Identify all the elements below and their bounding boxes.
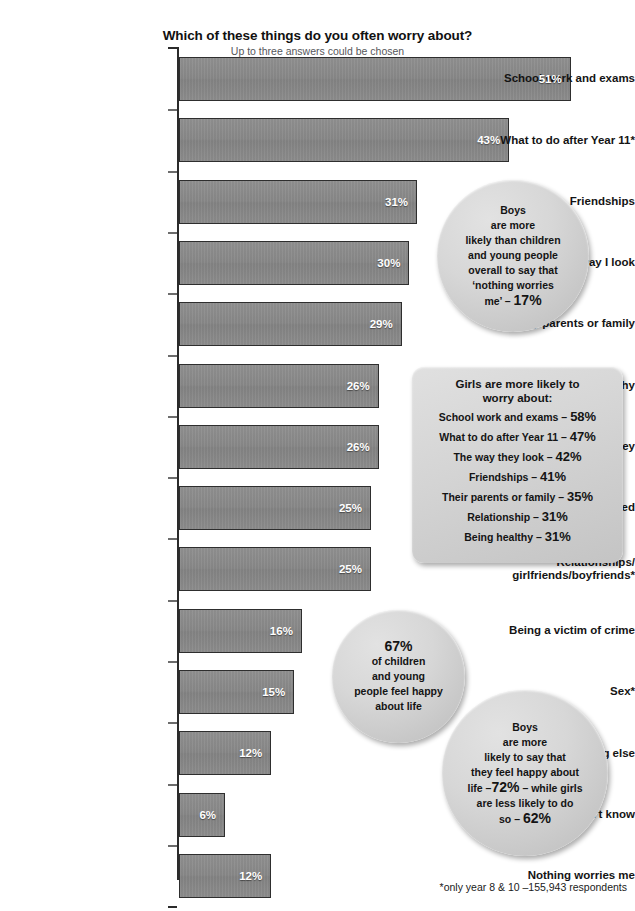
callout-line: about life (342, 699, 455, 714)
axis-tick (168, 355, 177, 357)
callout-boys-nothing-worries: Boysare morelikely than childrenand youn… (437, 180, 589, 332)
callout-line: and young (342, 669, 455, 684)
callout-girls-item-value: 42% (556, 449, 582, 464)
bar-row: 12% (179, 854, 271, 898)
axis-tick (168, 600, 177, 602)
callout-line: they feel happy about (452, 765, 598, 780)
callout-girls-item-value: 58% (570, 409, 596, 424)
callout-line: are less likely to do (452, 796, 598, 811)
callout-girls-worries: Girls are more likely to worry about: Sc… (412, 367, 623, 563)
bar-row: 25% (179, 547, 371, 591)
callout-girls-heading-line2: worry about: (420, 391, 615, 405)
category-label: Being a victim of crime (463, 624, 635, 638)
axis-tick (168, 47, 177, 49)
bar-value-label: 12% (239, 731, 262, 775)
callout-line: me’ – 17% (447, 293, 579, 309)
axis-tick (168, 538, 177, 540)
axis-tick (168, 477, 177, 479)
callout-line: likely than children (447, 233, 579, 248)
callout-girls-item-value: 47% (570, 429, 596, 444)
bar-row: 29% (179, 302, 402, 346)
bar-value-label: 25% (339, 547, 362, 591)
bar (179, 241, 409, 285)
callout-girls-item-value: 41% (540, 469, 566, 484)
footnote: *only year 8 & 10 –155,943 respondents (440, 881, 627, 893)
callout-line: so – 62% (452, 811, 598, 827)
callout-boys-nothing-worries-text: Boysare morelikely than childrenand youn… (437, 203, 589, 309)
callout-girls-item: What to do after Year 11 – 47% (420, 427, 615, 447)
callout-line-text: me’ – (484, 295, 513, 307)
callout-happy-value: 67% (342, 639, 455, 654)
callout-line: overall to say that (447, 263, 579, 278)
callout-girls-item-label: Friendships – (469, 471, 540, 483)
callout-line: Boys (452, 720, 598, 735)
callout-boys-happy: Boysare morelikely to say thatthey feel … (442, 690, 608, 856)
callout-girls-item-value: 35% (567, 489, 593, 504)
callout-line: Boys (447, 203, 579, 218)
axis-tick (168, 109, 177, 111)
axis-tick (168, 232, 177, 234)
callout-girls-item-label: Their parents or family – (442, 491, 567, 503)
chart-title: Which of these things do you often worry… (0, 28, 635, 43)
callout-girls-item-label: School work and exams – (439, 411, 570, 423)
bar-row: 31% (179, 180, 417, 224)
axis-tick (168, 722, 177, 724)
callout-girls-item-label: What to do after Year 11 – (439, 431, 570, 443)
callout-girls-heading: Girls are more likely to worry about: (420, 377, 615, 405)
axis-tick (168, 416, 177, 418)
axis-tick (168, 906, 177, 908)
callout-line-text: – while girls (519, 782, 582, 794)
bar (179, 180, 417, 224)
callout-line: of children (342, 654, 455, 669)
bar-value-label: 51% (539, 57, 562, 101)
callout-girls-item-value: 31% (542, 509, 568, 524)
callout-line: people feel happy (342, 684, 455, 699)
callout-girls-item: Relationship – 31% (420, 507, 615, 527)
callout-line: ‘nothing worries (447, 278, 579, 293)
callout-girls-item-label: Being healthy – (464, 531, 545, 543)
callout-line: are more (452, 735, 598, 750)
bar-row: 15% (179, 670, 294, 714)
bar-value-label: 43% (477, 118, 500, 162)
callout-happy-about-life-text: 67%of childrenand youngpeople feel happy… (332, 639, 465, 714)
bar-value-label: 26% (347, 364, 370, 408)
callout-girls-heading-line1: Girls are more likely to (420, 377, 615, 391)
bar-row: 43% (179, 118, 509, 162)
bar-value-label: 15% (262, 670, 285, 714)
callout-line-text: life – (468, 782, 492, 794)
axis-tick (168, 845, 177, 847)
bar-value-label: 6% (199, 793, 216, 837)
bar-value-label: 25% (339, 486, 362, 530)
bar-row: 26% (179, 425, 379, 469)
bar-value-label: 12% (239, 854, 262, 898)
bar-value-label: 26% (347, 425, 370, 469)
bar-row: 12% (179, 731, 271, 775)
axis-tick (168, 661, 177, 663)
callout-girls-item-value: 31% (545, 529, 571, 544)
callout-girls-item: Their parents or family – 35% (420, 487, 615, 507)
callout-girls-item: Being healthy – 31% (420, 527, 615, 547)
callout-line: and young people (447, 248, 579, 263)
bar-value-label: 29% (370, 302, 393, 346)
callout-line: life –72% – while girls (452, 780, 598, 796)
bar-row: 26% (179, 364, 379, 408)
bar (179, 302, 402, 346)
callout-line: likely to say that (452, 750, 598, 765)
bar-value-label: 16% (270, 609, 293, 653)
callout-girls-item-list: School work and exams – 58%What to do af… (420, 407, 615, 547)
bar-row: 30% (179, 241, 409, 285)
bar-value-label: 30% (377, 241, 400, 285)
callout-girls-item-label: Relationship – (467, 511, 542, 523)
callout-girls-item: The way they look – 42% (420, 447, 615, 467)
axis-tick (168, 784, 177, 786)
callout-girls-item: School work and exams – 58% (420, 407, 615, 427)
callout-value: 17% (514, 292, 542, 308)
callout-girls-happy-value: 62% (523, 810, 551, 826)
callout-girls-item-label: The way they look – (453, 451, 555, 463)
axis-tick (168, 171, 177, 173)
callout-boys-happy-text: Boysare morelikely to say thatthey feel … (442, 720, 608, 827)
callout-line-text: so – (499, 813, 523, 825)
chart-container: Which of these things do you often worry… (0, 0, 635, 911)
chart-subtitle: Up to three answers could be chosen (0, 45, 635, 57)
axis-tick (168, 293, 177, 295)
